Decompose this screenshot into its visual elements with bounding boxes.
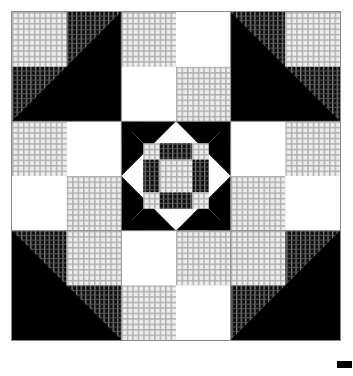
- patch-light: [285, 12, 340, 67]
- quilt-block-canvas: [12, 12, 340, 340]
- patch-light: [121, 285, 176, 340]
- center-cell: [176, 176, 192, 192]
- unit-middle-right: [231, 121, 340, 230]
- patch-light: [67, 176, 122, 231]
- center-grid-top: [143, 143, 209, 209]
- center-cell: [176, 143, 192, 159]
- registration-mark: [337, 361, 352, 368]
- patch-light: [12, 121, 67, 176]
- quilt-pattern-page: [0, 0, 353, 376]
- center-cell: [160, 160, 176, 176]
- patch-light: [176, 231, 231, 286]
- patch-light: [67, 231, 122, 286]
- patch-light: [285, 121, 340, 176]
- center-cell: [176, 160, 192, 176]
- patch-light: [12, 12, 67, 67]
- center-cell: [160, 143, 176, 159]
- patch-light: [231, 176, 286, 231]
- center-cell: [143, 143, 159, 159]
- center-cell: [160, 176, 176, 192]
- center-cell: [192, 176, 208, 192]
- center-cell: [143, 176, 159, 192]
- unit-top-center: [121, 12, 230, 121]
- center-cell: [143, 192, 159, 208]
- patch-light: [121, 12, 176, 67]
- center-cell: [160, 192, 176, 208]
- unit-bottom-center: [121, 231, 230, 340]
- unit-middle-left: [12, 121, 121, 230]
- center-cell: [143, 160, 159, 176]
- center-cell: [192, 192, 208, 208]
- center-cell: [192, 143, 208, 159]
- center-cell: [192, 160, 208, 176]
- patch-light: [176, 67, 231, 122]
- quilt-block: [11, 11, 341, 341]
- center-cell: [176, 192, 192, 208]
- patch-light: [231, 231, 286, 286]
